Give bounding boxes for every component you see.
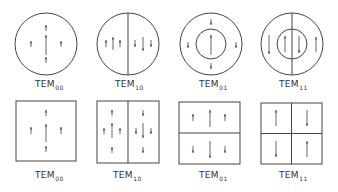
circular-mode-tem00 [15,13,77,75]
mode-label-text: TEM [35,170,55,180]
field-arrow-up-icon [284,36,287,52]
field-arrow-up-icon [45,57,48,63]
circular-mode-tem10 [97,13,159,75]
field-arrow-up-icon [315,37,318,52]
circular-mode-tem01 [180,13,242,75]
rectangular-mode-tem11 [261,103,322,164]
field-arrow-up-icon [30,127,33,134]
circular-mode-tem11 [261,13,323,75]
field-arrow-down-icon [142,110,145,116]
rectangular-mode-patterns [16,101,322,164]
field-arrow-up-icon [60,41,63,47]
circular-mode-patterns [15,13,323,75]
mode-label-subscript: 10 [133,175,141,182]
mode-label-text: TEM [199,79,219,89]
field-arrow-up-icon [111,123,114,138]
mode-label-subscript: 11 [299,84,307,91]
mode-label: TEM11 [279,170,308,180]
field-arrow-up-icon [192,114,195,121]
field-arrow-up-icon [103,128,106,134]
mode-label: TEM10 [113,170,142,180]
mode-label-text: TEM [113,170,133,180]
field-arrow-down-icon [235,42,238,48]
field-arrow-down-icon [306,110,309,126]
rectangular-mode-tem10 [97,101,159,163]
mode-label-text: TEM [199,170,219,180]
mode-label: TEM01 [199,79,228,89]
field-arrow-up-icon [30,41,33,47]
field-arrow-up-icon [119,40,122,47]
field-arrow-up-icon [112,37,115,50]
mode-label-text: TEM [115,79,135,89]
field-arrow-up-icon [275,110,278,126]
field-arrow-down-icon [298,36,301,53]
mode-label-subscript: 00 [55,175,63,182]
field-arrow-down-icon [268,35,271,54]
field-arrow-down-icon [135,128,138,134]
field-arrow-up-icon [111,147,114,153]
mode-label-subscript: 11 [299,175,307,182]
field-arrow-up-icon [45,25,48,31]
field-arrow-down-icon [134,40,137,47]
field-arrow-up-icon [209,110,212,127]
field-arrow-down-icon [142,147,145,153]
field-arrow-down-icon [187,42,190,48]
field-arrow-down-icon [150,40,153,47]
field-arrow-down-icon [224,146,227,153]
field-arrow-down-icon [210,19,213,25]
field-arrow-up-icon [119,128,122,134]
mode-label-text: TEM [279,79,299,89]
rectangular-mode-tem01 [179,102,240,164]
field-arrow-up-icon [45,146,48,152]
field-arrow-down-icon [210,63,213,69]
field-arrow-down-icon [150,128,153,134]
field-arrow-up-icon [60,127,63,134]
mode-label: TEM11 [279,79,308,89]
field-arrow-up-icon [306,141,309,157]
field-arrow-down-icon [142,37,145,51]
field-arrow-up-icon [105,40,108,47]
mode-label-text: TEM [279,170,299,180]
field-arrow-up-icon [210,35,213,55]
mode-label: TEM10 [115,79,144,89]
tem-mode-diagram [0,0,338,192]
mode-label: TEM00 [35,170,64,180]
field-arrow-up-icon [45,124,48,142]
mode-label-subscript: 10 [135,84,143,91]
mode-label: TEM00 [35,79,64,89]
field-arrow-down-icon [192,146,195,153]
rectangular-mode-tem00 [16,101,76,161]
field-arrow-up-icon [45,110,48,116]
field-arrow-down-icon [142,123,145,138]
field-arrow-down-icon [275,141,278,157]
mode-label-subscript: 01 [219,84,227,91]
field-arrow-down-icon [209,141,212,158]
mode-label: TEM01 [199,170,228,180]
field-arrow-up-icon [45,35,48,55]
mode-label-subscript: 01 [219,175,227,182]
field-arrow-up-icon [224,114,227,121]
mode-label-text: TEM [35,79,55,89]
mode-label-subscript: 00 [55,84,63,91]
field-arrow-up-icon [111,110,114,116]
